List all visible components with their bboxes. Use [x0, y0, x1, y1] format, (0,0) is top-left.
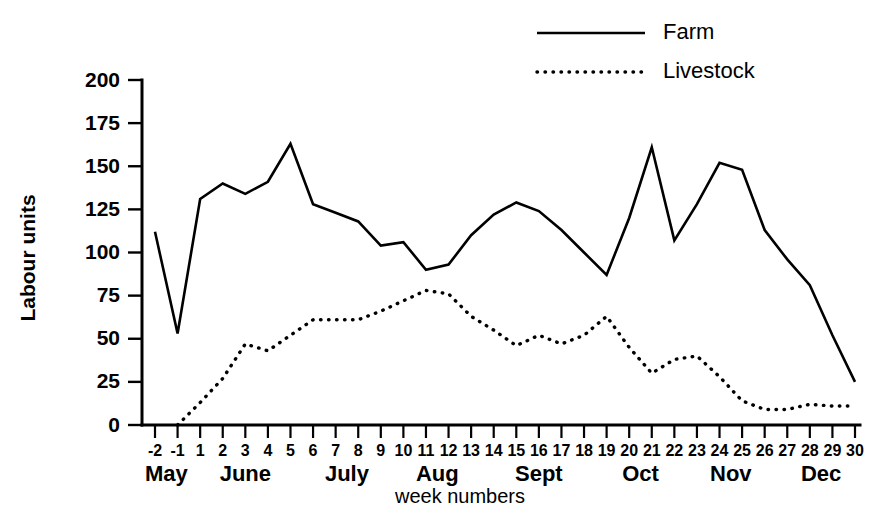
x-tick-label: 14: [485, 442, 503, 459]
x-tick-label: 22: [665, 442, 683, 459]
x-axis-month-label: May: [145, 461, 189, 486]
y-axis-title: Labour units: [16, 194, 39, 321]
x-tick-label: 15: [507, 442, 525, 459]
x-axis-month-labels: MayJuneJulyAugSeptOctNovDec: [145, 461, 841, 486]
x-tick-label: 20: [620, 442, 638, 459]
legend-label-farm: Farm: [663, 19, 714, 44]
x-tick-label: 5: [286, 442, 295, 459]
x-axis-month-label: July: [325, 461, 370, 486]
x-tick-label: 26: [756, 442, 774, 459]
y-tick-label: 150: [85, 154, 120, 177]
x-tick-label: 8: [354, 442, 363, 459]
y-tick-label: 100: [85, 240, 120, 263]
y-tick-label: 0: [108, 413, 120, 436]
x-tick-label: 12: [440, 442, 458, 459]
x-tick-label: 11: [418, 442, 435, 459]
x-tick-label: -1: [170, 442, 184, 459]
x-tick-label: -2: [148, 442, 162, 459]
x-tick-label: 9: [376, 442, 385, 459]
x-tick-label: 18: [575, 442, 593, 459]
x-axis-month-label: Oct: [622, 461, 659, 486]
x-axis-month-label: Nov: [710, 461, 752, 486]
x-tick-label: 17: [553, 442, 571, 459]
x-tick-label: 4: [263, 442, 272, 459]
x-tick-label: 13: [462, 442, 480, 459]
x-tick-label: 10: [394, 442, 412, 459]
chart-legend: FarmLivestock: [537, 19, 756, 83]
chart-axes: [142, 80, 860, 425]
x-tick-label: 3: [241, 442, 250, 459]
x-tick-label: 21: [643, 442, 661, 459]
y-tick-label: 200: [85, 68, 120, 91]
x-axis-month-label: Sept: [515, 461, 563, 486]
x-tick-label: 29: [824, 442, 842, 459]
series-line-livestock: [178, 290, 855, 425]
y-axis-ticks: 0255075100125150175200: [85, 68, 142, 436]
x-axis-title: week numbers: [394, 485, 525, 507]
x-tick-label: 24: [711, 442, 729, 459]
x-tick-label: 1: [196, 442, 205, 459]
x-tick-label: 6: [309, 442, 318, 459]
x-tick-label: 19: [598, 442, 616, 459]
series-line-farm: [155, 144, 855, 382]
x-tick-label: 23: [688, 442, 706, 459]
legend-label-livestock: Livestock: [663, 58, 756, 83]
labour-units-line-chart: FarmLivestock 0255075100125150175200 -2-…: [0, 0, 887, 525]
chart-series: [155, 144, 855, 425]
x-tick-label: 25: [733, 442, 751, 459]
y-tick-label: 125: [85, 197, 120, 220]
x-axis-tick-labels: -2-1123456789101112131415161718192021222…: [148, 442, 864, 459]
x-tick-label: 27: [778, 442, 796, 459]
y-tick-label: 175: [85, 111, 120, 134]
y-tick-label: 50: [97, 326, 120, 349]
y-tick-label: 25: [97, 369, 121, 392]
x-axis-month-label: Aug: [416, 461, 459, 486]
x-tick-label: 28: [801, 442, 819, 459]
x-tick-label: 16: [530, 442, 548, 459]
x-tick-label: 7: [331, 442, 340, 459]
x-axis-month-label: Dec: [801, 461, 841, 486]
x-tick-label: 30: [846, 442, 864, 459]
chart-page: FarmLivestock 0255075100125150175200 -2-…: [0, 0, 887, 525]
x-tick-label: 2: [218, 442, 227, 459]
y-tick-label: 75: [97, 283, 121, 306]
x-axis-month-label: June: [220, 461, 271, 486]
x-axis-ticks: [155, 425, 855, 438]
